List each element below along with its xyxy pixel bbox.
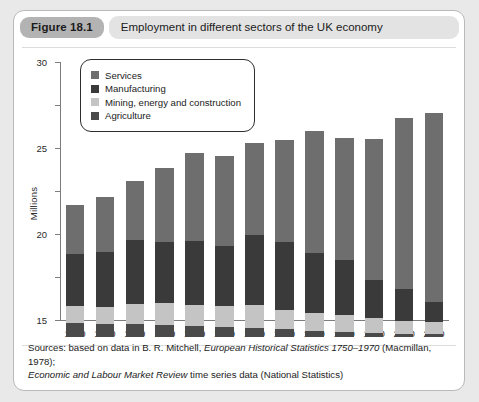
sources-text-2b: time series data (National Statistics) [187, 369, 343, 380]
bar-column [365, 139, 384, 337]
bar-segment [245, 143, 264, 235]
sources-note: Sources: based on data in B. R. Mitchell… [28, 341, 450, 382]
sources-title-italic-1: European Historical Statistics 1750–1970 [204, 342, 379, 353]
bar-segment [185, 326, 204, 337]
bar-segment [215, 246, 234, 306]
bar-segment [275, 242, 294, 310]
bar-segment [185, 153, 204, 241]
y-axis-line [60, 62, 61, 321]
bar-segment [126, 240, 145, 305]
bar-segment [395, 334, 414, 337]
bar-column [425, 113, 444, 337]
bar-segment [335, 332, 354, 337]
bar-column [96, 197, 115, 337]
bar-segment [155, 325, 174, 337]
legend-item: Manufacturing [91, 83, 241, 94]
bar-segment [185, 241, 204, 306]
bar-segment [245, 305, 264, 327]
bar-segment [395, 321, 414, 334]
bar-segment [395, 118, 414, 289]
bar-column [185, 153, 204, 337]
y-axis-tick-label: 30 [36, 57, 47, 68]
legend-item: Mining, energy and construction [91, 97, 241, 108]
bar-segment [305, 331, 324, 337]
bar-segment [185, 305, 204, 326]
bar-column [155, 168, 174, 337]
bar-column [215, 156, 234, 337]
y-axis-tick-label: 20 [36, 229, 47, 240]
sources-title-italic-2: Economic and Labour Market Review [28, 369, 187, 380]
bar-column [395, 118, 414, 337]
bar-segment [425, 334, 444, 337]
legend-item: Agriculture [91, 110, 241, 121]
screenshot-root: Figure 18.1 Employment in different sect… [0, 0, 479, 402]
bar-segment [305, 253, 324, 313]
bar-segment [425, 113, 444, 302]
bar-segment [155, 242, 174, 304]
bar-segment [305, 313, 324, 331]
legend-swatch-icon [91, 112, 99, 120]
bar-segment [335, 315, 354, 332]
bar-segment [215, 306, 234, 327]
bar-segment [215, 156, 234, 245]
bar-segment [96, 324, 115, 337]
legend-swatch-icon [91, 98, 99, 106]
figure-header: Figure 18.1 Employment in different sect… [14, 11, 464, 43]
bar-segment [365, 280, 384, 318]
bar-column [275, 140, 294, 337]
legend-item-label: Mining, energy and construction [105, 97, 241, 108]
y-axis-tick: 5 [55, 277, 60, 278]
bar-segment [155, 303, 174, 325]
y-axis-tick-label: 15 [36, 315, 47, 326]
y-axis-tick: 30 [55, 62, 60, 63]
bar-segment [365, 318, 384, 333]
legend-item: Services [91, 70, 241, 81]
bar-segment [126, 324, 145, 337]
bar-segment [126, 181, 145, 240]
sources-line-1: Sources: based on data in B. R. Mitchell… [28, 341, 450, 368]
legend-swatch-icon [91, 71, 99, 79]
figure-number-badge: Figure 18.1 [20, 17, 104, 38]
sources-line-2: Economic and Labour Market Review time s… [28, 368, 450, 382]
bar-column [66, 205, 85, 337]
y-axis-tick: 10 [55, 234, 60, 235]
sources-text-1a: Sources: based on data in B. R. Mitchell… [28, 342, 204, 353]
bar-segment [245, 328, 264, 337]
bar-segment [245, 235, 264, 306]
bar-segment [365, 333, 384, 337]
y-axis-label: Millions [28, 174, 39, 234]
y-axis-tick: 20 [55, 148, 60, 149]
bar-segment [365, 139, 384, 280]
bar-segment [335, 260, 354, 314]
bar-segment [275, 310, 294, 330]
bar-segment [395, 289, 414, 321]
bar-segment [96, 197, 115, 252]
legend-item-label: Agriculture [105, 110, 151, 121]
bar-segment [66, 323, 85, 337]
bar-column [126, 181, 145, 337]
figure-title: Employment in different sectors of the U… [109, 16, 459, 39]
bar-column [335, 138, 354, 337]
figure-card: Figure 18.1 Employment in different sect… [13, 10, 465, 391]
bar-segment [155, 168, 174, 242]
bar-segment [305, 131, 324, 253]
bar-segment [275, 329, 294, 337]
bar-segment [96, 307, 115, 324]
bar-column [245, 143, 264, 337]
legend-swatch-icon [91, 85, 99, 93]
bar-segment [425, 322, 444, 334]
bar-segment [275, 140, 294, 241]
bar-segment [66, 205, 85, 254]
bar-column [305, 131, 324, 337]
bar-segment [335, 138, 354, 260]
bar-segment [126, 304, 145, 324]
bar-segment [96, 252, 115, 307]
y-axis-tick: 25 [55, 105, 60, 106]
bar-segment [66, 306, 85, 323]
y-axis-tick: 0 [55, 320, 60, 321]
bar-segment [215, 327, 234, 337]
legend-item-label: Services [105, 70, 142, 81]
y-axis-tick-label: 25 [36, 143, 47, 154]
bar-segment [425, 302, 444, 322]
chart-legend: ServicesManufacturingMining, energy and … [80, 59, 255, 132]
